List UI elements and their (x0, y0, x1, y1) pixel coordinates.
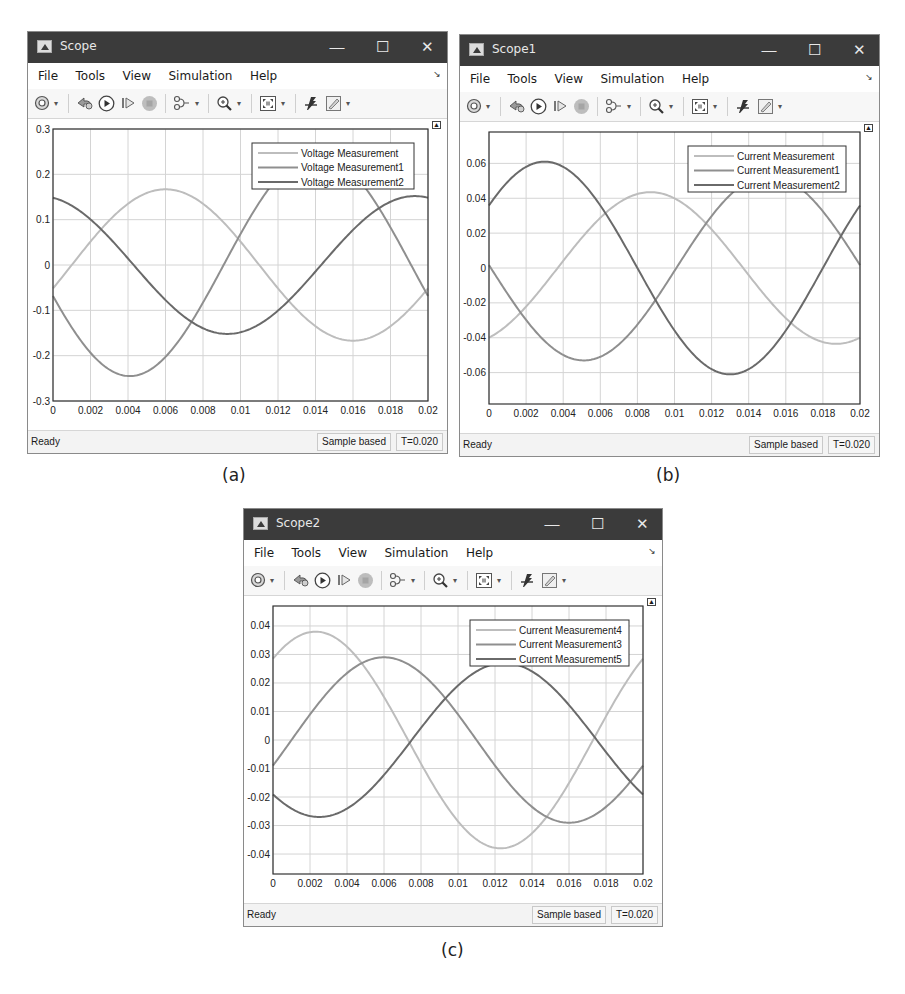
menu-file[interactable]: File (254, 540, 274, 566)
stop-icon[interactable] (573, 97, 590, 115)
zoom-in-icon[interactable]: ▾ (216, 94, 241, 112)
chevron-down-icon[interactable]: ▾ (346, 99, 350, 108)
settings-gear-icon[interactable]: ▾ (466, 97, 490, 115)
close-button[interactable]: ✕ (413, 36, 441, 58)
toolbar-separator (208, 94, 209, 113)
menu-tools[interactable]: Tools (76, 63, 106, 89)
chevron-down-icon[interactable]: ▾ (411, 576, 415, 585)
menu-tools[interactable]: Tools (508, 66, 538, 92)
settings-gear-icon[interactable]: ▾ (34, 94, 58, 112)
zoom-in-icon[interactable]: ▾ (648, 97, 673, 115)
y-tick-label: 0.02 (251, 677, 271, 688)
legend[interactable]: Current MeasurementCurrent Measurement1C… (688, 146, 846, 192)
menu-view[interactable]: View (339, 540, 367, 566)
menu-view[interactable]: View (123, 63, 151, 89)
minimize-button[interactable]: — (538, 513, 566, 535)
sample-mode-indicator: Sample based (317, 433, 391, 451)
scope-plot[interactable]: 00.0020.0040.0060.0080.010.0120.0140.016… (460, 122, 879, 436)
chevron-down-icon[interactable]: ▾ (669, 102, 673, 111)
stop-icon[interactable] (357, 571, 374, 589)
legend-label: Voltage Measurement1 (301, 162, 404, 173)
title-bar[interactable]: Scope1 — ☐ ✕ (460, 35, 879, 66)
menu-tools[interactable]: Tools (292, 540, 322, 566)
y-tick-label: 0.02 (467, 228, 487, 239)
step-back-icon[interactable] (76, 94, 94, 112)
legend[interactable]: Current Measurement4Current Measurement3… (470, 620, 629, 666)
chevron-down-icon[interactable]: ▾ (195, 99, 199, 108)
maximize-button[interactable]: ☐ (368, 36, 396, 58)
autoscale-icon[interactable]: ▾ (259, 94, 285, 112)
cursor-measurement-icon[interactable] (303, 94, 319, 112)
cursor-measurement-icon[interactable] (519, 571, 535, 589)
chevron-down-icon[interactable]: ▾ (778, 102, 782, 111)
dock-arrow-icon[interactable]: ↘ (865, 72, 873, 82)
legend-label: Current Measurement4 (519, 625, 622, 636)
toolbar-separator (500, 97, 501, 116)
zoom-in-icon[interactable]: ▾ (432, 571, 457, 589)
x-tick-label: 0.008 (190, 405, 215, 416)
toolbar-separator (251, 94, 252, 113)
menu-file[interactable]: File (470, 66, 490, 92)
step-back-icon[interactable] (292, 571, 310, 589)
run-icon[interactable] (530, 97, 547, 115)
chevron-down-icon[interactable]: ▾ (497, 576, 501, 585)
x-tick-label: 0.006 (588, 408, 613, 419)
run-icon[interactable] (314, 571, 331, 589)
title-bar[interactable]: Scope2 — ☐ ✕ (244, 509, 662, 540)
signal-routing-icon[interactable]: ▾ (605, 97, 631, 115)
chevron-down-icon[interactable]: ▾ (237, 99, 241, 108)
autoscale-icon[interactable]: ▾ (475, 571, 501, 589)
step-forward-icon[interactable] (552, 97, 568, 115)
run-icon[interactable] (98, 94, 115, 112)
x-tick-label: 0.008 (408, 878, 433, 889)
step-back-icon[interactable] (508, 97, 526, 115)
stop-icon[interactable] (141, 94, 158, 112)
settings-gear-icon[interactable]: ▾ (250, 571, 274, 589)
minimize-button[interactable]: — (323, 36, 351, 58)
signal-routing-icon[interactable]: ▾ (389, 571, 415, 589)
plot-area[interactable]: ▲ 00.0020.0040.0060.0080.010.0120.0140.0… (460, 122, 879, 436)
chevron-down-icon[interactable]: ▾ (453, 576, 457, 585)
x-tick-label: 0.002 (78, 405, 103, 416)
menu-simulation[interactable]: Simulation (169, 63, 233, 89)
dock-arrow-icon[interactable]: ↘ (648, 546, 656, 556)
menu-simulation[interactable]: Simulation (385, 540, 449, 566)
menu-file[interactable]: File (38, 63, 58, 89)
menu-view[interactable]: View (555, 66, 583, 92)
close-button[interactable]: ✕ (628, 513, 656, 535)
toolbar-separator (165, 94, 166, 113)
dock-arrow-icon[interactable]: ↘ (433, 69, 441, 79)
title-bar[interactable]: Scope — ☐ ✕ (28, 32, 447, 63)
cursor-measurement-icon[interactable] (735, 97, 751, 115)
scope-plot[interactable]: 00.0020.0040.0060.0080.010.0120.0140.016… (28, 119, 447, 433)
minimize-button[interactable]: — (755, 39, 783, 61)
menu-help[interactable]: Help (250, 63, 277, 89)
chevron-down-icon[interactable]: ▾ (627, 102, 631, 111)
close-button[interactable]: ✕ (845, 39, 873, 61)
plot-area[interactable]: ▲ 00.0020.0040.0060.0080.010.0120.0140.0… (28, 119, 447, 433)
highlight-edit-icon[interactable]: ▾ (325, 94, 350, 112)
step-forward-icon[interactable] (336, 571, 352, 589)
step-forward-icon[interactable] (120, 94, 136, 112)
chevron-down-icon[interactable]: ▾ (54, 99, 58, 108)
maximize-button[interactable]: ☐ (800, 39, 828, 61)
chevron-down-icon[interactable]: ▾ (281, 99, 285, 108)
autoscale-icon[interactable]: ▾ (691, 97, 717, 115)
plot-area[interactable]: ▲ 00.0020.0040.0060.0080.010.0120.0140.0… (244, 596, 662, 906)
y-tick-label: 0 (44, 260, 50, 271)
chevron-down-icon[interactable]: ▾ (486, 102, 490, 111)
status-bar: Ready Sample based T=0.020 (244, 903, 662, 926)
highlight-edit-icon[interactable]: ▾ (541, 571, 566, 589)
highlight-edit-icon[interactable]: ▾ (757, 97, 782, 115)
legend[interactable]: Voltage MeasurementVoltage Measurement1V… (252, 143, 414, 189)
scope-plot[interactable]: 00.0020.0040.0060.0080.010.0120.0140.016… (244, 596, 662, 906)
sample-mode-indicator: Sample based (749, 436, 823, 454)
signal-routing-icon[interactable]: ▾ (173, 94, 199, 112)
maximize-button[interactable]: ☐ (583, 513, 611, 535)
menu-help[interactable]: Help (466, 540, 493, 566)
chevron-down-icon[interactable]: ▾ (562, 576, 566, 585)
chevron-down-icon[interactable]: ▾ (713, 102, 717, 111)
chevron-down-icon[interactable]: ▾ (270, 576, 274, 585)
menu-help[interactable]: Help (682, 66, 709, 92)
menu-simulation[interactable]: Simulation (601, 66, 665, 92)
